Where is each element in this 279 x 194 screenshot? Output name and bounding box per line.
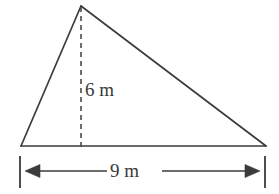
triangle-figure: 6 m 9 m: [0, 0, 279, 194]
dimension-arrowhead-left: [25, 165, 40, 178]
triangle-right-side: [81, 6, 266, 146]
base-dimension-label: 9 m: [107, 161, 142, 180]
dimension-arrowhead-right: [245, 165, 260, 178]
triangle-left-side: [21, 6, 81, 146]
height-dimension-label: 6 m: [85, 80, 114, 99]
